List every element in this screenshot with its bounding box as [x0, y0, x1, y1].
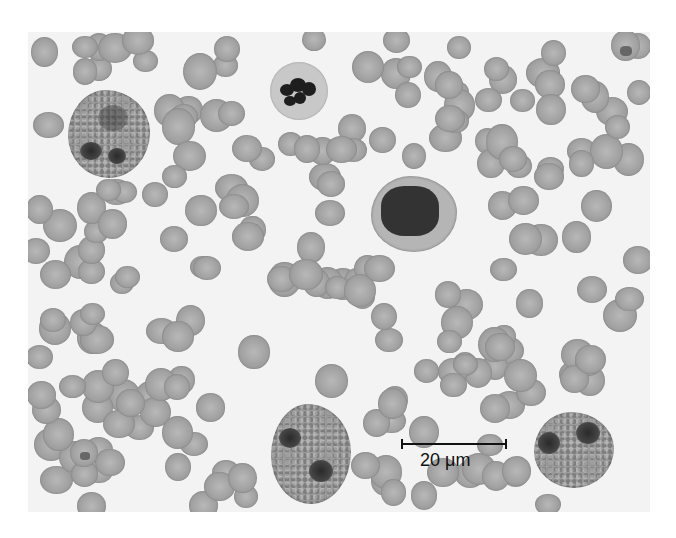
red-blood-cell	[437, 330, 461, 353]
red-blood-cell	[375, 328, 403, 353]
red-blood-cell	[31, 37, 58, 67]
red-blood-cell	[378, 388, 407, 418]
red-blood-cell	[59, 375, 86, 398]
red-blood-cell	[28, 238, 50, 264]
red-blood-cell	[541, 40, 566, 66]
red-blood-cell	[40, 308, 66, 332]
red-blood-cell	[115, 266, 140, 288]
red-blood-cell	[577, 276, 607, 303]
red-blood-cell	[383, 32, 411, 53]
red-blood-cell	[623, 246, 650, 274]
red-blood-cell	[142, 182, 168, 207]
red-blood-cell	[502, 456, 531, 486]
red-blood-cell	[160, 226, 189, 252]
red-blood-cell	[351, 452, 379, 479]
red-blood-cell	[615, 287, 643, 312]
red-blood-cell	[402, 143, 426, 169]
red-blood-cell	[40, 260, 71, 289]
red-blood-cell	[72, 36, 98, 58]
red-blood-cell	[477, 434, 502, 456]
scale-bar	[401, 443, 507, 445]
red-blood-cell	[102, 359, 129, 386]
red-blood-cell	[435, 281, 461, 307]
granulocyte-bottom-center	[271, 404, 351, 504]
red-blood-cell	[289, 259, 323, 290]
red-blood-cell	[369, 127, 395, 153]
neutrophil-top	[270, 62, 328, 120]
red-blood-cell	[536, 94, 565, 125]
red-blood-cell	[185, 195, 216, 226]
red-blood-cell	[447, 36, 471, 59]
red-blood-cell	[219, 194, 249, 219]
red-blood-cell	[509, 223, 542, 255]
red-blood-cell	[73, 58, 98, 85]
red-blood-cell	[28, 345, 53, 369]
red-blood-cell	[193, 256, 222, 281]
red-blood-cell	[364, 255, 395, 282]
red-blood-cell	[381, 479, 406, 505]
monocyte-center	[371, 176, 457, 252]
red-blood-cell	[575, 345, 606, 375]
red-blood-cell	[162, 165, 187, 188]
red-blood-cell	[510, 89, 535, 112]
red-blood-cell	[569, 150, 594, 176]
red-blood-cell	[605, 115, 630, 139]
red-blood-cell	[475, 88, 502, 112]
red-blood-cell	[232, 135, 261, 162]
red-blood-cell	[581, 190, 612, 222]
red-blood-cell	[317, 171, 346, 196]
red-blood-cell	[98, 209, 128, 238]
red-blood-cell	[228, 463, 257, 493]
red-blood-cell	[440, 373, 466, 398]
red-blood-cell	[315, 364, 349, 398]
red-blood-cell	[77, 492, 107, 512]
red-blood-cell	[371, 303, 397, 330]
red-blood-cell	[183, 53, 217, 90]
red-blood-cell	[294, 135, 320, 163]
red-blood-cell	[162, 321, 193, 351]
red-blood-cell	[397, 56, 421, 78]
blood-smear-photo	[28, 32, 650, 512]
red-blood-cell	[297, 232, 325, 262]
red-blood-cell	[485, 333, 515, 362]
red-blood-cell	[238, 335, 269, 368]
red-blood-cell	[116, 389, 145, 416]
red-blood-cell	[165, 453, 191, 481]
red-blood-cell	[414, 359, 439, 382]
red-blood-cell	[96, 179, 120, 201]
red-blood-cell	[33, 112, 64, 138]
red-blood-cell	[232, 222, 264, 251]
red-blood-cell	[411, 481, 438, 510]
red-blood-cell	[164, 374, 190, 400]
red-blood-cell	[562, 221, 591, 252]
red-blood-cell	[214, 36, 240, 62]
red-blood-cell	[535, 494, 561, 512]
red-blood-cell	[196, 393, 226, 421]
red-blood-cell	[504, 359, 537, 392]
red-blood-cell	[28, 381, 56, 408]
granulocyte-top-left	[68, 90, 150, 178]
red-blood-cell	[516, 289, 543, 317]
platelet-clump	[80, 452, 90, 460]
red-blood-cell	[80, 303, 105, 325]
red-blood-cell	[453, 354, 477, 376]
granulocyte-bottom-right	[534, 412, 614, 488]
red-blood-cell	[162, 108, 196, 144]
red-blood-cell	[352, 51, 384, 83]
red-blood-cell	[302, 32, 326, 51]
scale-bar-label: 20 μm	[420, 450, 470, 471]
red-blood-cell	[395, 82, 421, 108]
red-blood-cell	[326, 136, 357, 163]
red-blood-cell	[571, 75, 600, 103]
platelet-clump	[620, 46, 632, 56]
red-blood-cell	[627, 80, 650, 106]
red-blood-cell	[162, 416, 193, 449]
red-blood-cell	[534, 163, 564, 190]
red-blood-cell	[315, 200, 346, 226]
red-blood-cell	[218, 101, 245, 126]
red-blood-cell	[95, 449, 124, 477]
red-blood-cell	[490, 258, 517, 281]
red-blood-cell	[508, 186, 539, 214]
red-blood-cell	[480, 394, 511, 423]
